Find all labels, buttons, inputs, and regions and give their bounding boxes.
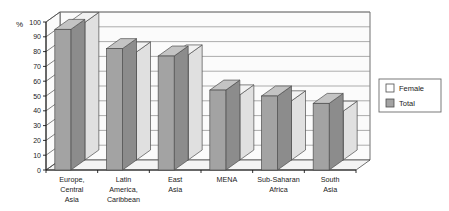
y-tick-label: 40 — [33, 107, 41, 114]
y-tick-label: 100 — [29, 19, 41, 26]
y-tick-label: 20 — [33, 137, 41, 144]
grouped-bar-chart-3d: 0102030405060708090100%Europe,CentralAsi… — [0, 0, 449, 211]
category-label: MENA — [216, 175, 237, 184]
bar-side-face — [174, 46, 188, 170]
bar-side-face — [85, 12, 99, 160]
bar-side-face — [71, 19, 85, 170]
bar-front-face — [262, 96, 278, 170]
y-tick-label: 50 — [33, 93, 41, 100]
bar-front-face — [55, 29, 71, 170]
bar-side-face — [329, 93, 343, 170]
category-label: SouthAsia — [321, 175, 340, 194]
category-label: Sub-SaharanAfrica — [257, 175, 299, 194]
y-tick-label: 10 — [33, 152, 41, 159]
bar-side-face — [188, 45, 202, 160]
bar-side-face — [240, 85, 254, 160]
bar-total — [210, 80, 240, 170]
bar-total — [262, 86, 292, 170]
bar-side-face — [278, 86, 292, 170]
category-label: EastAsia — [168, 175, 182, 194]
bar-total — [158, 46, 188, 170]
legend-swatch — [386, 99, 394, 107]
y-tick-label: 0 — [37, 167, 41, 174]
bar-group — [107, 39, 151, 170]
category-label: LatinAmerica,Caribbean — [107, 175, 140, 204]
bar-front-face — [313, 103, 329, 170]
y-axis-ticks: 0102030405060708090100 — [29, 19, 46, 174]
y-tick-label: 70 — [33, 63, 41, 70]
y-axis-unit-label: % — [16, 20, 23, 29]
chart-plot-area: 0102030405060708090100% — [16, 12, 370, 174]
chart-container: 0102030405060708090100%Europe,CentralAsi… — [0, 0, 449, 211]
bar-side-face — [123, 39, 137, 170]
y-tick-label: 80 — [33, 48, 41, 55]
bar-group — [55, 12, 99, 170]
bar-front-face — [210, 90, 226, 170]
legend-item: Female — [386, 84, 424, 93]
legend-label: Total — [399, 99, 415, 108]
legend-label: Female — [399, 84, 424, 93]
legend-swatch — [386, 84, 394, 92]
chart-legend: FemaleTotal — [379, 79, 441, 112]
bar-front-face — [107, 49, 123, 170]
bar-total — [107, 39, 137, 170]
bar-front-face — [158, 56, 174, 170]
legend-item: Total — [386, 99, 415, 108]
y-tick-label: 60 — [33, 78, 41, 85]
bar-total — [55, 19, 85, 170]
x-axis-category-labels: Europe,CentralAsiaLatinAmerica,Caribbean… — [59, 175, 339, 204]
bar-side-face — [137, 42, 151, 160]
bar-group — [158, 45, 202, 170]
bar-side-face — [226, 80, 240, 170]
y-tick-label: 90 — [33, 33, 41, 40]
category-label: Europe,CentralAsia — [59, 175, 84, 204]
y-tick-label: 30 — [33, 122, 41, 129]
bar-side-face — [292, 91, 306, 160]
bar-total — [313, 93, 343, 170]
